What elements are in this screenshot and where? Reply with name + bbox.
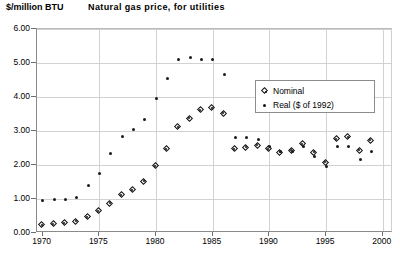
data-point-real — [302, 145, 305, 148]
data-point-real — [143, 118, 146, 121]
data-point-nominal — [255, 143, 262, 150]
data-point-nominal — [62, 220, 69, 227]
data-point-real — [268, 145, 271, 148]
chart-legend: Nominal Real ($ of 1992) — [255, 80, 375, 113]
chart-title: Natural gas price, for utilities — [88, 2, 225, 12]
data-point-real — [359, 158, 362, 161]
gridline-vertical — [269, 29, 270, 231]
gridline-vertical — [383, 29, 384, 231]
data-point-real — [257, 138, 260, 141]
y-axis-tick-label: 6.00 — [0, 23, 30, 33]
x-axis-tick-label: 1980 — [135, 236, 175, 246]
chart-container: $/million BTU Natural gas price, for uti… — [0, 0, 400, 262]
gridline-horizontal — [37, 199, 391, 200]
x-axis-tick-label: 1990 — [248, 236, 288, 246]
data-point-nominal — [232, 146, 239, 153]
data-point-nominal — [357, 148, 364, 155]
data-point-real — [347, 145, 350, 148]
data-point-real — [336, 145, 339, 148]
y-axis-tickmark — [31, 28, 36, 29]
data-point-nominal — [141, 179, 148, 186]
plot-area — [36, 28, 392, 232]
gridline-horizontal — [37, 131, 391, 132]
y-axis-tickmark — [31, 198, 36, 199]
data-point-real — [245, 136, 248, 139]
data-point-real — [64, 198, 67, 201]
gridline-vertical — [326, 29, 327, 231]
x-axis-tick-label: 1970 — [22, 236, 62, 246]
gridline-horizontal — [37, 63, 391, 64]
data-point-nominal — [368, 138, 375, 145]
y-axis-tick-label: 3.00 — [0, 125, 30, 135]
y-axis-tick-label: 4.00 — [0, 91, 30, 101]
data-point-nominal — [187, 116, 194, 123]
data-point-real — [132, 128, 135, 131]
data-point-real — [121, 135, 124, 138]
gridline-vertical — [156, 29, 157, 231]
y-axis-tickmark — [31, 164, 36, 165]
data-point-nominal — [73, 219, 80, 226]
data-point-nominal — [198, 107, 205, 114]
data-point-nominal — [51, 221, 58, 228]
data-point-nominal — [119, 192, 126, 199]
gridline-horizontal — [37, 165, 391, 166]
x-axis-tick-label: 1975 — [78, 236, 118, 246]
y-axis-tick-label: 2.00 — [0, 159, 30, 169]
y-axis-tick-label: 1.00 — [0, 193, 30, 203]
x-axis-tick-label: 1985 — [192, 236, 232, 246]
data-point-nominal — [209, 105, 216, 112]
data-point-nominal — [85, 214, 92, 221]
data-point-nominal — [107, 201, 114, 208]
data-point-real — [87, 184, 90, 187]
data-point-nominal — [334, 136, 341, 143]
legend-label-real: Real ($ of 1992) — [273, 100, 334, 110]
data-point-real — [291, 150, 294, 153]
data-point-nominal — [164, 146, 171, 153]
data-point-real — [177, 58, 180, 61]
y-axis-tick-label: 5.00 — [0, 57, 30, 67]
data-point-nominal — [96, 208, 103, 215]
data-point-real — [325, 165, 328, 168]
data-point-real — [234, 136, 237, 139]
data-point-real — [211, 58, 214, 61]
data-point-nominal — [153, 163, 160, 170]
data-point-nominal — [221, 111, 228, 118]
legend-entry-real: Real ($ of 1992) — [260, 98, 370, 112]
data-point-nominal — [130, 187, 137, 194]
data-point-real — [75, 196, 78, 199]
x-axis-tick-label: 2000 — [362, 236, 400, 246]
gridline-vertical — [99, 29, 100, 231]
legend-entry-nominal: Nominal — [260, 84, 370, 98]
y-axis-label: $/million BTU — [6, 2, 64, 12]
diamond-marker-icon — [260, 86, 273, 96]
x-axis-tick-label: 1995 — [305, 236, 345, 246]
data-point-real — [98, 172, 101, 175]
data-point-real — [223, 73, 226, 76]
data-point-real — [109, 152, 112, 155]
data-point-nominal — [175, 124, 182, 131]
y-axis-tickmark — [31, 96, 36, 97]
data-point-nominal — [243, 145, 250, 152]
y-axis-tickmark — [31, 130, 36, 131]
data-point-real — [155, 97, 158, 100]
data-point-real — [166, 77, 169, 80]
data-point-real — [370, 150, 373, 153]
data-point-real — [200, 58, 203, 61]
dot-marker-icon — [260, 100, 273, 110]
data-point-nominal — [39, 222, 46, 229]
data-point-real — [53, 198, 56, 201]
gridline-horizontal — [37, 29, 391, 30]
legend-label-nominal: Nominal — [273, 86, 304, 96]
y-axis-tickmark — [31, 62, 36, 63]
y-axis-tickmark — [31, 232, 36, 233]
data-point-nominal — [345, 134, 352, 141]
data-point-real — [41, 199, 44, 202]
data-point-real — [313, 155, 316, 158]
data-point-real — [189, 56, 192, 59]
